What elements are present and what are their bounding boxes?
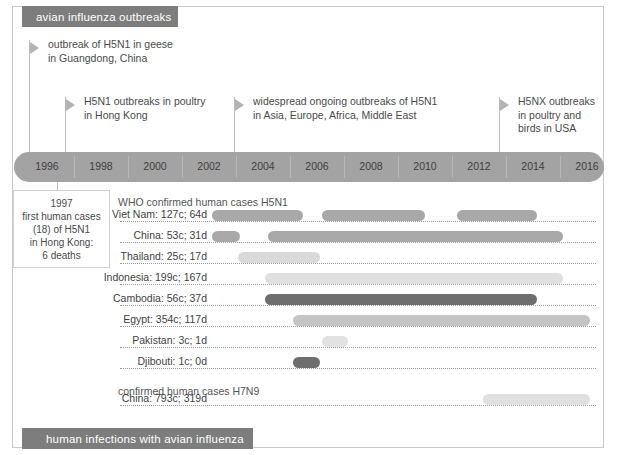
axis-separator-9 xyxy=(560,156,561,178)
axis-year-1998: 1998 xyxy=(81,160,121,172)
axis-year-2016: 2016 xyxy=(567,160,607,172)
top-banner: avian influenza outbreaks xyxy=(22,6,178,27)
axis-separator-1 xyxy=(128,156,129,178)
bottom-banner: human infections with avian influenza xyxy=(22,428,253,449)
event-marker-line-h5n1-geese-guangdong xyxy=(29,40,30,152)
event-flag-icon-h5n1-geese-guangdong xyxy=(30,42,39,54)
event-flag-icon-h5n1-poultry-hongkong xyxy=(66,99,75,111)
axis-separator-8 xyxy=(506,156,507,178)
axis-year-2004: 2004 xyxy=(243,160,283,172)
axis-separator-2 xyxy=(182,156,183,178)
axis-year-2008: 2008 xyxy=(351,160,391,172)
axis-separator-6 xyxy=(398,156,399,178)
axis-year-2000: 2000 xyxy=(135,160,175,172)
event-flag-icon-h5n1-widespread xyxy=(235,99,244,111)
axis-separator-3 xyxy=(236,156,237,178)
event-caption-h5n1-widespread: widespread ongoing outbreaks of H5N1 in … xyxy=(253,95,437,122)
axis-separator-5 xyxy=(344,156,345,178)
event-caption-h5nx-usa: H5NX outbreaks in poultry and birds in U… xyxy=(518,95,595,136)
axis-year-2002: 2002 xyxy=(189,160,229,172)
axis-year-1996: 1996 xyxy=(27,160,67,172)
axis-separator-0 xyxy=(74,156,75,178)
axis-separator-4 xyxy=(290,156,291,178)
infographic-root: avian influenza outbreaks outbreak of H5… xyxy=(0,0,617,455)
axis-year-2010: 2010 xyxy=(405,160,445,172)
event-flag-icon-h5nx-usa xyxy=(500,99,509,111)
event-caption-h5n1-poultry-hongkong: H5N1 outbreaks in poultry in Hong Kong xyxy=(84,95,205,122)
event-caption-h5n1-geese-guangdong: outbreak of H5N1 in geese in Guangdong, … xyxy=(48,38,173,65)
axis-year-2014: 2014 xyxy=(513,160,553,172)
axis-separator-7 xyxy=(452,156,453,178)
axis-year-2012: 2012 xyxy=(459,160,499,172)
timeline-axis: 1996199820002002200420062008201020122014… xyxy=(14,152,604,182)
axis-year-2006: 2006 xyxy=(297,160,337,172)
callout-1997: 1997 first human cases (18) of H5N1 in H… xyxy=(13,190,110,268)
